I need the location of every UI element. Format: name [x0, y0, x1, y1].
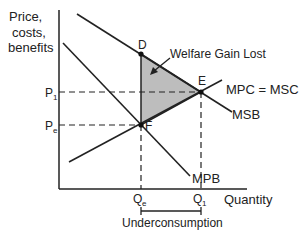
point-d — [138, 51, 143, 56]
mpb-curve — [63, 43, 190, 176]
y-label-1: Price, — [9, 9, 42, 24]
point-e — [198, 89, 203, 94]
qe-sub: e — [142, 199, 147, 208]
welfare-gain-lost-label: Welfare Gain Lost — [170, 47, 266, 61]
point-d-label: D — [138, 38, 147, 52]
y-label-2: costs, — [12, 25, 46, 40]
q1-sub: 1 — [202, 199, 207, 208]
p1-label: P — [45, 86, 53, 100]
msb-label: MSB — [232, 107, 260, 122]
point-f-label: F — [145, 119, 152, 133]
pe-sub: e — [53, 126, 58, 135]
x-axis-label: Quantity — [224, 192, 273, 207]
y-label-3: benefits — [8, 40, 54, 55]
point-e-label: E — [198, 74, 206, 88]
pe-label: P — [45, 119, 53, 133]
welfare-loss-triangle — [141, 54, 201, 125]
underconsumption-label: Underconsumption — [122, 216, 223, 230]
q1-label: Q — [193, 192, 202, 206]
qe-label: Q — [133, 192, 142, 206]
p1-sub: 1 — [53, 93, 58, 102]
mpb-label: MPB — [192, 171, 220, 186]
point-f — [138, 122, 143, 127]
mpc-msc-label: MPC = MSC — [226, 82, 299, 97]
externality-diagram: Price, costs, benefits P 1 P e Q e Q 1 Q… — [0, 0, 305, 231]
